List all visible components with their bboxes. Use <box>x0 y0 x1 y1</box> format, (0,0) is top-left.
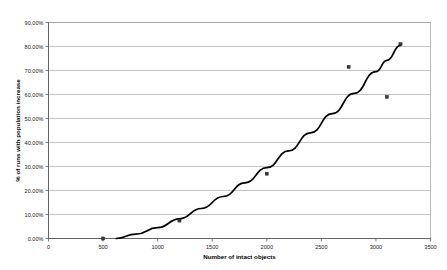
y-tick-label: 60.00% <box>25 92 44 98</box>
y-tick-label: 0.00% <box>28 236 44 242</box>
y-tick-label: 70.00% <box>25 68 44 74</box>
x-axis-title: Number of intact objects <box>203 253 276 260</box>
data-point-marker <box>265 172 268 175</box>
y-tick-label: 50.00% <box>25 116 44 122</box>
scatter-chart: 0.00%10.00%20.00%30.00%40.00%50.00%60.00… <box>0 0 447 270</box>
data-point-marker <box>178 219 181 222</box>
data-point-marker <box>399 43 402 46</box>
data-point-marker <box>347 65 350 68</box>
x-tick-label: 3500 <box>424 244 436 250</box>
y-tick-label: 40.00% <box>25 140 44 146</box>
y-tick-label: 30.00% <box>25 164 44 170</box>
x-tick-label: 1500 <box>206 244 218 250</box>
chart-container: 0.00%10.00%20.00%30.00%40.00%50.00%60.00… <box>0 0 447 270</box>
y-axis-title: % of runs with population increase <box>14 79 21 182</box>
y-tick-label: 90.00% <box>25 20 44 26</box>
x-tick-label: 1000 <box>151 244 163 250</box>
y-tick-label: 80.00% <box>25 44 44 50</box>
x-tick-label: 2500 <box>315 244 327 250</box>
y-tick-label: 20.00% <box>25 188 44 194</box>
y-tick-label: 10.00% <box>25 212 44 218</box>
data-point-marker <box>101 237 104 240</box>
x-tick-label: 3000 <box>370 244 382 250</box>
chart-background <box>0 0 447 270</box>
data-point-marker <box>385 95 388 98</box>
x-tick-label: 500 <box>98 244 107 250</box>
x-tick-label: 2000 <box>261 244 273 250</box>
x-tick-label: 0 <box>47 244 50 250</box>
